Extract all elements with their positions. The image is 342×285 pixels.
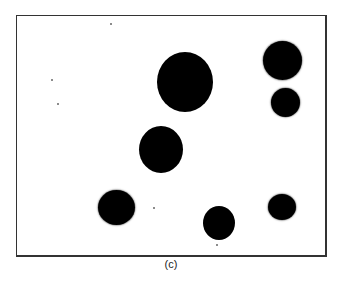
blob-bottom-right — [268, 194, 296, 220]
blob-large-center — [157, 52, 213, 112]
blob-middle — [139, 126, 183, 173]
noise-speck — [153, 207, 155, 209]
figure-caption: (c) — [0, 258, 342, 270]
noise-speck — [110, 23, 112, 25]
blob-right-upper-small — [271, 88, 300, 117]
blob-bottom-left — [98, 190, 135, 225]
noise-speck — [51, 79, 53, 81]
blob-top-right — [263, 41, 302, 80]
blob-bottom-center — [203, 206, 235, 240]
noise-speck — [216, 244, 218, 246]
noise-speck — [57, 103, 59, 105]
